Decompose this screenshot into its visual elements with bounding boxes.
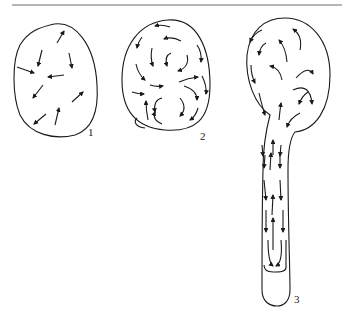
panel-1-label: 1 (88, 126, 94, 138)
panel-2-cell (122, 20, 210, 130)
panel-3-label: 3 (294, 293, 300, 305)
figure-caption (12, 309, 338, 317)
panel-2-label: 2 (200, 130, 206, 142)
panel-3-cell (247, 18, 330, 306)
panel-1-cell (14, 24, 97, 137)
diagram-canvas (0, 0, 342, 317)
